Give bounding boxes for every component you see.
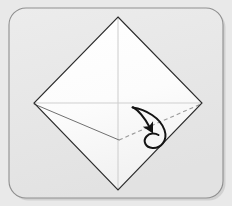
origami-diagram [0,0,232,206]
diagram-stage: Origami fold step fold line fold flap ov… [0,0,232,206]
